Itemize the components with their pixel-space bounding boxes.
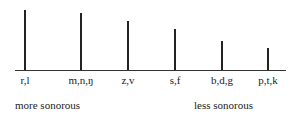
category-label: r,l — [20, 74, 29, 86]
category-label: z,v — [121, 74, 134, 86]
more-sonorous-caption: more sonorous — [15, 99, 80, 111]
sonority-bar — [127, 21, 129, 70]
sonority-bar — [221, 41, 223, 70]
category-label: m,n,ŋ — [69, 74, 94, 86]
baseline-axis — [15, 70, 286, 71]
sonority-bar — [24, 10, 26, 70]
category-label: p,t,k — [258, 74, 278, 86]
less-sonorous-caption: less sonorous — [194, 99, 253, 111]
sonority-bar — [267, 48, 269, 70]
category-label: s,f — [170, 74, 181, 86]
sonority-bar — [80, 13, 82, 70]
sonority-bar — [174, 29, 176, 70]
category-label: b,d,g — [211, 74, 233, 86]
